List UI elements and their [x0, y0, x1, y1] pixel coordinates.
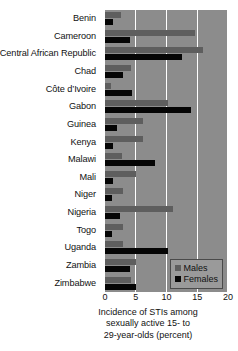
bar-female — [105, 248, 168, 254]
bar-female — [105, 19, 113, 25]
category-label: Zambia — [0, 257, 100, 275]
category-label-text: Malawi — [68, 155, 96, 164]
category-label-text: Chad — [74, 67, 96, 76]
category-label: Uganda — [0, 239, 100, 257]
bar-male — [105, 12, 121, 18]
bar-female — [105, 284, 136, 290]
bar-male — [105, 188, 123, 194]
bar-male — [105, 100, 168, 106]
bar-group — [105, 169, 228, 187]
bar-female — [105, 107, 191, 113]
category-label-text: Zimbabwe — [54, 279, 96, 288]
bar-female — [105, 178, 113, 184]
bar-female — [105, 195, 112, 201]
bar-group — [105, 133, 228, 151]
bar-male — [105, 30, 195, 36]
x-tick-label: 10 — [161, 293, 171, 302]
category-label: Niger — [0, 186, 100, 204]
bar-group — [105, 204, 228, 222]
x-tick-label: 5 — [133, 293, 138, 302]
x-axis-tick-labels: 05101520 — [105, 293, 228, 306]
legend-label: Females — [184, 275, 219, 284]
bar-male — [105, 65, 131, 71]
bar-female — [105, 213, 120, 219]
category-label-text: Côte d’Ivoire — [46, 85, 96, 94]
category-label: Côte d’Ivoire — [0, 81, 100, 99]
legend-item: Females — [175, 274, 218, 285]
bar-group — [105, 151, 228, 169]
bar-male — [105, 241, 123, 247]
bar-female — [105, 54, 182, 60]
bar-female — [105, 143, 113, 149]
category-label-text: Nigeria — [68, 208, 96, 217]
category-label: Kenya — [0, 133, 100, 151]
category-label: Central African Republic — [0, 45, 100, 63]
x-axis-title-line: Incidence of STIs among — [68, 307, 228, 318]
x-tick-label: 0 — [102, 293, 107, 302]
category-label: Zimbabwe — [0, 274, 100, 292]
category-label-text: Togo — [76, 226, 96, 235]
bar-group — [105, 28, 228, 46]
plot-area — [105, 10, 228, 292]
bar-male — [105, 47, 203, 53]
category-label-text: Mali — [80, 173, 96, 182]
category-label-column: BeninCameroonCentral African RepublicCha… — [0, 10, 100, 292]
bar-group — [105, 116, 228, 134]
x-axis-title: Incidence of STIs amongsexually active 1… — [68, 307, 228, 341]
bar-group — [105, 81, 228, 99]
bar-male — [105, 136, 143, 142]
category-label: Chad — [0, 63, 100, 81]
bar-female — [105, 231, 112, 237]
bar-male — [105, 171, 136, 177]
x-tick-label: 15 — [192, 293, 202, 302]
legend-label: Males — [184, 264, 208, 273]
category-label-text: Cameroon — [54, 32, 96, 41]
category-label: Cameroon — [0, 28, 100, 46]
bar-group — [105, 45, 228, 63]
legend-swatch-icon — [175, 276, 181, 282]
sti-incidence-bar-chart: BeninCameroonCentral African RepublicCha… — [0, 0, 238, 351]
bar-group — [105, 222, 228, 240]
x-tick-label: 20 — [223, 293, 233, 302]
chart-legend: MalesFemales — [170, 259, 223, 289]
bar-group — [105, 186, 228, 204]
x-axis-title-line: sexually active 15- to — [68, 318, 228, 329]
category-label: Guinea — [0, 116, 100, 134]
bar-group — [105, 98, 228, 116]
category-label-text: Central African Republic — [0, 49, 96, 58]
bar-group — [105, 10, 228, 28]
category-label-text: Gabon — [69, 102, 96, 111]
bar-group — [105, 239, 228, 257]
category-label: Nigeria — [0, 204, 100, 222]
bar-female — [105, 160, 155, 166]
category-label: Gabon — [0, 98, 100, 116]
bar-male — [105, 259, 136, 265]
category-label-text: Uganda — [64, 243, 96, 252]
bar-male — [105, 224, 123, 230]
bar-female — [105, 37, 130, 43]
category-label-text: Kenya — [70, 138, 96, 147]
category-label: Togo — [0, 222, 100, 240]
category-label: Malawi — [0, 151, 100, 169]
bar-male — [105, 206, 173, 212]
bar-male — [105, 277, 131, 283]
category-label-text: Zambia — [66, 261, 96, 270]
bar-female — [105, 125, 117, 131]
category-label: Benin — [0, 10, 100, 28]
category-label-text: Benin — [73, 14, 96, 23]
bar-female — [105, 266, 130, 272]
category-label-text: Guinea — [67, 120, 96, 129]
category-label: Mali — [0, 169, 100, 187]
bar-female — [105, 72, 123, 78]
category-label-text: Niger — [75, 190, 96, 199]
bar-male — [105, 83, 111, 89]
bar-female — [105, 90, 132, 96]
legend-swatch-icon — [175, 265, 181, 271]
legend-item: Males — [175, 263, 218, 274]
bar-male — [105, 118, 143, 124]
x-axis-title-line: 29-year-olds (percent) — [68, 330, 228, 341]
bar-group — [105, 63, 228, 81]
bar-male — [105, 153, 122, 159]
